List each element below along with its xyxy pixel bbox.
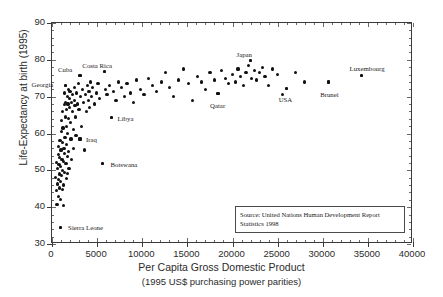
x-minor-tick-mark xyxy=(287,240,288,242)
x-minor-tick-mark xyxy=(133,23,134,25)
y-minor-tick-mark xyxy=(52,75,54,76)
data-point xyxy=(67,167,70,170)
x-tick-mark xyxy=(368,238,369,242)
x-minor-tick-mark xyxy=(377,23,378,25)
x-minor-tick-mark xyxy=(169,23,170,25)
data-point xyxy=(164,71,167,74)
data-point xyxy=(62,147,65,150)
y-minor-tick-mark xyxy=(52,67,54,68)
data-point xyxy=(83,148,86,151)
x-tick-mark xyxy=(142,238,143,242)
data-point xyxy=(168,86,171,89)
data-point xyxy=(67,150,70,153)
x-minor-tick-mark xyxy=(61,23,62,25)
x-tick-mark xyxy=(413,23,414,27)
source-note-line-2: Statistics 1998 xyxy=(240,219,404,228)
x-tick-mark xyxy=(142,242,143,247)
x-minor-tick-mark xyxy=(359,240,360,242)
data-point xyxy=(177,78,180,81)
x-tick-mark xyxy=(52,242,53,247)
y-minor-tick-mark xyxy=(52,38,54,39)
data-point xyxy=(135,78,138,81)
data-point xyxy=(64,162,67,165)
x-minor-tick-mark xyxy=(296,23,297,25)
x-minor-tick-mark xyxy=(178,240,179,242)
y-tick-mark xyxy=(407,60,411,61)
data-point xyxy=(62,204,65,207)
data-point xyxy=(55,203,58,206)
x-minor-tick-mark xyxy=(377,240,378,242)
data-point xyxy=(76,102,79,105)
data-point xyxy=(276,73,279,76)
point-label-luxembourg: Luxembourg xyxy=(350,65,385,72)
data-point xyxy=(66,155,69,158)
data-point xyxy=(72,147,75,150)
point-label-botswana: Botswana xyxy=(111,161,138,168)
y-minor-tick-mark xyxy=(409,52,411,53)
y-minor-tick-mark xyxy=(52,111,54,112)
data-point xyxy=(196,75,199,78)
x-tick-mark xyxy=(368,242,369,247)
data-point xyxy=(182,67,185,70)
x-minor-tick-mark xyxy=(169,240,170,242)
data-point-labeled xyxy=(285,87,288,90)
data-point xyxy=(81,88,84,91)
data-point xyxy=(247,64,250,67)
data-point xyxy=(86,84,89,87)
x-tick-label: 25000 xyxy=(255,249,299,259)
data-point xyxy=(82,101,85,104)
data-point xyxy=(95,91,98,94)
y-tick-mark xyxy=(407,207,411,208)
data-point-labeled xyxy=(103,70,106,73)
x-minor-tick-mark xyxy=(223,23,224,25)
x-minor-tick-mark xyxy=(260,23,261,25)
source-note-box: Source: United Nations Human Development… xyxy=(235,206,405,233)
data-point xyxy=(123,95,126,98)
y-tick-mark xyxy=(407,170,411,171)
data-point xyxy=(213,78,216,81)
x-minor-tick-mark xyxy=(205,240,206,242)
data-point xyxy=(250,77,253,80)
x-minor-tick-mark xyxy=(404,23,405,25)
data-point xyxy=(239,75,242,78)
data-point xyxy=(56,182,59,185)
data-point xyxy=(263,75,266,78)
x-minor-tick-mark xyxy=(196,23,197,25)
y-minor-tick-mark xyxy=(52,126,54,127)
x-tick-label: 40000 xyxy=(390,249,434,259)
x-minor-tick-mark xyxy=(386,23,387,25)
y-minor-tick-mark xyxy=(409,38,411,39)
y-minor-tick-mark xyxy=(52,45,54,46)
y-minor-tick-mark xyxy=(409,237,411,238)
data-point xyxy=(84,93,87,96)
data-point xyxy=(271,67,274,70)
x-minor-tick-mark xyxy=(287,23,288,25)
x-tick-label: 0 xyxy=(29,249,73,259)
data-point xyxy=(75,91,78,94)
x-minor-tick-mark xyxy=(178,23,179,25)
data-point xyxy=(93,102,96,105)
data-point xyxy=(59,165,62,168)
data-point xyxy=(68,97,71,100)
y-minor-tick-mark xyxy=(409,111,411,112)
y-minor-tick-mark xyxy=(409,215,411,216)
data-point xyxy=(65,125,68,128)
x-minor-tick-mark xyxy=(79,240,80,242)
x-minor-tick-mark xyxy=(196,240,197,242)
data-point xyxy=(125,82,128,85)
x-tick-mark xyxy=(413,238,414,242)
x-minor-tick-mark xyxy=(350,23,351,25)
data-point-labeled xyxy=(101,162,104,165)
data-point xyxy=(155,90,158,93)
point-label-georgia: Georgia xyxy=(32,81,54,88)
point-label-japan: Japan xyxy=(237,51,252,58)
data-point xyxy=(60,174,63,177)
y-tick-mark xyxy=(407,244,411,245)
x-minor-tick-mark xyxy=(341,240,342,242)
x-minor-tick-mark xyxy=(124,23,125,25)
x-minor-tick-mark xyxy=(106,240,107,242)
x-tick-label: 15000 xyxy=(164,249,208,259)
x-minor-tick-mark xyxy=(70,23,71,25)
x-minor-tick-mark xyxy=(305,23,306,25)
x-minor-tick-mark xyxy=(341,23,342,25)
